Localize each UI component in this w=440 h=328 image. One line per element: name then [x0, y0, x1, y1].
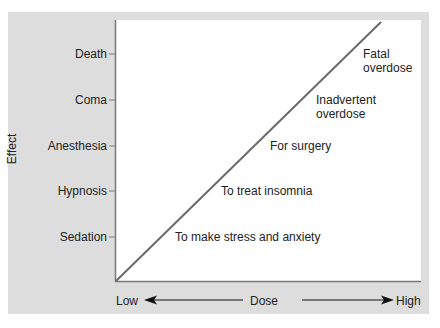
- annotation-fatal-line1: Fatal: [363, 47, 390, 61]
- y-axis-label: Effect: [4, 127, 20, 171]
- y-tick-label-hypnosis: Hypnosis: [58, 184, 107, 198]
- annotation-surgery: For surgery: [270, 139, 331, 153]
- annotation-insomnia: To treat insomnia: [221, 184, 312, 198]
- annotation-inadvertent-line1: Inadvertent: [316, 93, 376, 107]
- annotation-inadvertent-line2: overdose: [316, 107, 365, 121]
- y-tick-label-death: Death: [75, 47, 107, 61]
- y-tick-label-sedation: Sedation: [60, 230, 107, 244]
- x-axis-high-label: High: [396, 294, 421, 308]
- y-tick-label-coma: Coma: [75, 93, 107, 107]
- x-axis-label: Dose: [250, 294, 278, 308]
- x-axis-low-label: Low: [116, 294, 138, 308]
- y-tick-label-anesthesia: Anesthesia: [48, 139, 107, 153]
- annotation-fatal-line2: overdose: [363, 61, 412, 75]
- annotation-stress: To make stress and anxiety: [175, 230, 320, 244]
